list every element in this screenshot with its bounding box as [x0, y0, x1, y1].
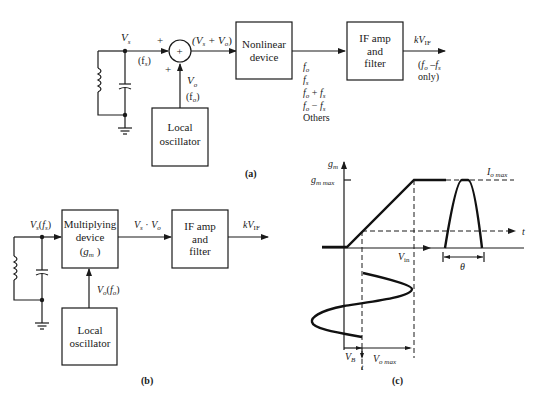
caption-b: (b) [141, 375, 153, 387]
if-output-label-b: kVIF [243, 219, 260, 232]
gm-transfer-curve [322, 180, 446, 247]
caption-a: (a) [245, 168, 257, 180]
input-signal-label-b: Vs(fs) [30, 219, 51, 232]
svg-text:Nonlinear: Nonlinear [242, 38, 286, 50]
svg-text:IF amp: IF amp [359, 32, 391, 44]
svg-text:Local: Local [167, 121, 192, 133]
part-c-transfer-curve: gm gm max Vin Io max t θ [311, 158, 525, 387]
svg-text:device: device [250, 51, 279, 63]
lo-signal-label: Vo [187, 74, 198, 89]
input-signal-label: Vs [121, 31, 131, 46]
lo-frequency-label: (fo) [186, 91, 200, 104]
svg-text:Others: Others [303, 112, 330, 123]
svg-text:IF amp: IF amp [184, 220, 216, 232]
svg-text:filter: filter [364, 57, 386, 69]
nonlinear-device-box: Nonlinear device [236, 22, 292, 79]
mixer-diagram-figure: Vs (fs) + + + (Vs + Vo) Vo (fo) Local os… [0, 0, 544, 400]
time-axis-label-down: t [361, 362, 364, 372]
inductor-icon [14, 256, 17, 280]
plus-sign-top: + [157, 34, 163, 46]
vin-axis-label: Vin [398, 251, 410, 264]
caption-c: (c) [392, 375, 403, 387]
local-oscillator-box-a: Local oscillator [152, 108, 208, 166]
mixer-products-list: fo fs fo + fs fo − fs Others [303, 61, 330, 123]
svg-text:oscillator: oscillator [160, 135, 201, 147]
conduction-angle-label: θ [460, 261, 465, 272]
gm-axis-label: gm [328, 158, 338, 171]
io-max-label: Io max [486, 166, 508, 179]
svg-text:filter: filter [189, 245, 211, 257]
tank-circuit-a [98, 49, 132, 134]
ground-icon [35, 323, 49, 329]
gm-max-label: gm max [311, 174, 335, 187]
svg-text:fo + fs: fo + fs [303, 87, 326, 100]
time-axis-label-right: t [522, 226, 525, 237]
svg-text:fo: fo [303, 61, 310, 74]
vo-max-label: Vo max [373, 353, 397, 366]
part-a-block-diagram: Vs (fs) + + + (Vs + Vo) Vo (fo) Local os… [98, 22, 445, 180]
if-output-label-a: kVIF [414, 34, 431, 47]
lo-signal-label-b: Vo(fo) [97, 284, 120, 297]
if-amp-filter-box-b: IF amp and filter [172, 210, 228, 268]
svg-text:Local: Local [77, 324, 102, 336]
tank-circuit-b [14, 235, 49, 329]
product-label: Vs · Vo [134, 219, 161, 232]
if-amp-filter-box-a: IF amp and filter [347, 22, 403, 80]
bias-voltage-label: VB [345, 351, 356, 364]
summer-plus-symbol: + [177, 45, 183, 57]
svg-text:and: and [192, 233, 208, 245]
svg-text:only): only) [418, 71, 439, 83]
inductor-icon [98, 68, 101, 92]
svg-text:device: device [76, 231, 105, 243]
ground-icon [118, 128, 132, 134]
local-oscillator-box-b: Local oscillator [62, 308, 117, 365]
sum-output-label: (Vs + Vo) [192, 34, 232, 48]
svg-text:and: and [367, 45, 383, 57]
multiplying-device-box: Multiplying device (gm ) [62, 210, 118, 268]
svg-text:fs: fs [303, 74, 309, 87]
summing-junction: + [169, 40, 191, 62]
plus-sign-left: + [165, 63, 171, 75]
input-frequency-label: (fs) [138, 55, 151, 68]
part-b-block-diagram: Vs(fs) Multiplying device (gm ) Vs · Vo … [14, 210, 268, 387]
svg-text:oscillator: oscillator [70, 337, 111, 349]
svg-text:Multiplying: Multiplying [64, 218, 117, 230]
current-pulse [445, 180, 482, 248]
